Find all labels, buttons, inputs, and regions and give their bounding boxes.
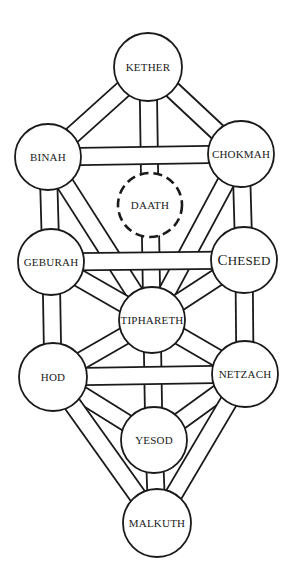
sephirah-malkuth: MALKUTH [123,489,191,557]
sephirah-netzach: NETZACH [212,341,278,407]
kether-label: KETHER [126,61,171,73]
binah-label: BINAH [30,151,66,163]
chokmah-label: CHOKMAH [212,148,270,160]
malkuth-label: MALKUTH [129,517,185,529]
sephirah-chesed: CHESED [211,227,277,293]
yesod-label: YESOD [135,434,173,446]
tree-of-life-diagram: KETHERBINAHCHOKMAHDAATHGEBURAHCHESEDTIPH… [0,0,296,588]
tiphareth-label: TIPHARETH [121,314,184,326]
geburah-label: GEBURAH [24,256,79,268]
sephirah-yesod: YESOD [121,407,187,473]
chesed-label: CHESED [217,252,270,268]
netzach-label: NETZACH [219,368,272,380]
daath-label: DAATH [131,199,169,211]
hod-label: HOD [41,371,65,383]
sephirah-binah: BINAH [15,124,81,190]
sephirah-chokmah: CHOKMAH [208,121,274,187]
sephirah-hod: HOD [19,343,87,411]
sephirah-tiphareth: TIPHARETH [119,287,185,353]
sephirah-daath: DAATH [118,173,182,237]
sephirah-geburah: GEBURAH [18,229,84,295]
tree-of-life-svg: KETHERBINAHCHOKMAHDAATHGEBURAHCHESEDTIPH… [0,0,296,588]
sephirah-kether: KETHER [114,33,182,101]
